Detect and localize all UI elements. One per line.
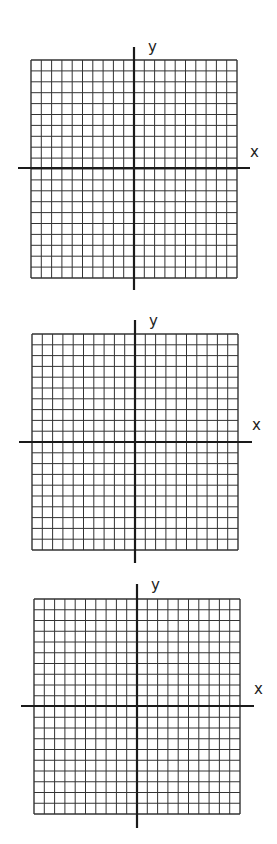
coordinate-plane-3: x y bbox=[21, 576, 263, 828]
x-axis-label: x bbox=[250, 143, 259, 161]
x-axis-label: x bbox=[252, 416, 261, 434]
coordinate-plane-2: x y bbox=[19, 312, 261, 563]
y-axis-label: y bbox=[148, 38, 157, 56]
coordinate-planes-sheet: x y x y x y bbox=[0, 0, 277, 844]
x-axis-label: x bbox=[254, 680, 263, 698]
y-axis-label: y bbox=[151, 576, 160, 594]
coordinate-plane-1: x y bbox=[18, 38, 259, 290]
y-axis-label: y bbox=[149, 312, 158, 330]
